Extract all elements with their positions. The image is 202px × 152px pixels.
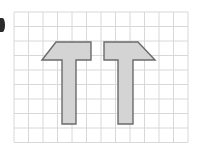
grid [14,12,188,143]
worksheet-canvas [0,0,202,152]
left-polygon[interactable] [42,42,91,124]
geometry-figure [0,0,202,152]
right-polygon[interactable] [104,42,155,124]
